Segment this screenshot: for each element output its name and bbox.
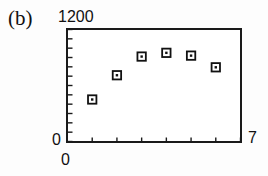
panel-label: (b) — [8, 8, 33, 29]
x-axis-min-label: 0 — [61, 152, 70, 168]
plot-area-frame — [66, 28, 242, 143]
y-axis-max-label: 1200 — [58, 9, 94, 25]
y-axis-min-label: 0 — [52, 132, 61, 148]
figure-panel: (b) 1200 0 0 7 — [0, 0, 268, 176]
x-axis-max-label: 7 — [248, 130, 257, 146]
